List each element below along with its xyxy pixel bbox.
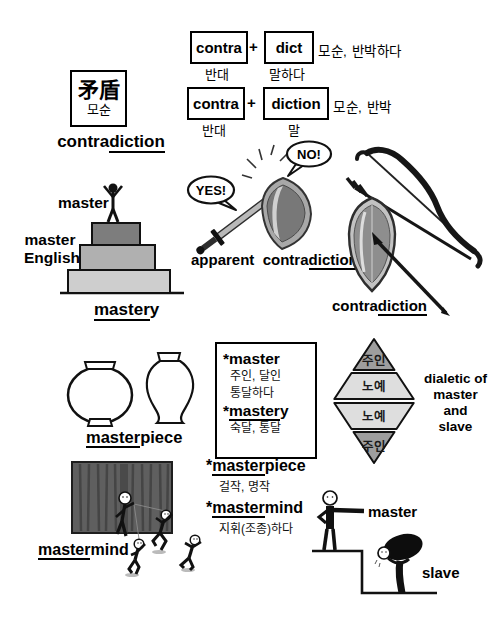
word-part-label: diction [271,95,320,112]
caption-masterpiece: masterpiece [86,428,182,447]
label-master: master [368,503,417,520]
diamond-label: dialetic of master and slave [416,371,495,435]
mastery-rest: y [280,402,289,419]
pyramid-side-label: master English [24,231,76,267]
masterpiece-rest: piece [265,457,306,474]
apparent-text: apparent [191,251,254,268]
vases-illustration [60,345,195,430]
headword-contradiction: contradiction [56,132,166,152]
pyramid-tier-top [92,223,140,245]
speech-bubble-no: NO! [287,142,331,177]
slave-figure [375,530,426,593]
word-part-box-contra-2: contra [187,87,245,120]
diamond-label-line4: slave [439,419,473,434]
bow-arrow-shield-illustration [345,142,495,317]
entry-mastery-word: *mastery [223,401,309,420]
pyramid-top-label: master [58,194,109,212]
puppet-theater-illustration [58,458,218,583]
master-slave-illustration [300,477,495,599]
masterpiece-root: master [212,457,264,476]
mastermind-rest: mind [90,541,128,558]
headword-root: diction [109,132,165,153]
mastermind-rest: mind [265,499,303,516]
entry-mastermind-gloss: 지휘(조종)하다 [206,519,306,536]
word-definition-box: *master 주인, 달인 통달하다 *mastery 숙달, 통달 [215,342,317,459]
diamond-diagram: 주인 노예 노예 주인 [331,337,417,465]
contradiction-plain: contra [263,251,309,268]
yes-text: YES! [196,183,226,198]
entry-masterpiece-word: *masterpiece [206,456,306,475]
entry-master-word: *master [223,349,309,368]
entry-master-gloss2: 통달하다 [223,385,309,401]
entry-mastery-gloss: 숙달, 통달 [223,420,309,436]
contradiction-plain: contra [332,297,378,314]
masterpiece-rest: piece [140,428,182,446]
band-text-juin: 주인 [362,353,386,368]
caption-mastery: mastery [94,300,159,320]
caption-apparent-contradiction: apparent contradiction [191,251,358,268]
puppet-figure-3 [181,535,201,572]
word-part-label: contra [196,39,242,56]
entry-masterpiece-gloss: 걸작, 명작 [206,477,306,494]
korean-meaning: 모순, 반박하다 [318,40,402,60]
mastery-root: master [229,402,280,421]
caption-mastermind: mastermind [38,541,129,559]
contradiction-root: diction [378,297,427,316]
master-figure [319,491,364,550]
no-text: NO! [297,147,321,162]
diamond-label-line2: master [433,387,477,402]
moon-jar-icon [68,362,132,426]
word-list: *masterpiece 걸작, 명작 *mastermind 지휘(조종)하다 [206,456,306,540]
korean-gloss: 말하다 [264,64,310,83]
speech-bubble-yes: YES! [188,177,236,211]
mastery-rest: y [150,300,159,319]
side-label-line1: master [25,231,76,248]
sword-shield-illustration: YES! NO! [186,138,338,258]
plus-sign: + [247,94,256,111]
masterpiece-root: master [86,428,140,448]
pyramid-tier-middle [80,245,155,270]
korean-meaning: 모순, 반박 [333,96,392,116]
word-part-label: dict [276,39,303,56]
entry-mastermind-word: *mastermind [206,498,306,517]
word-part-label: contra [193,95,239,112]
korean-gloss: 말 [263,120,325,139]
plus-sign: + [249,38,258,55]
impact-sparks [242,145,288,178]
mastery-root: master [94,300,150,321]
mastermind-root: master [38,541,90,560]
hanja-text: 矛盾 [78,79,120,102]
hanja-box: 矛盾 모순 [70,70,127,127]
label-slave: slave [422,564,460,581]
entry-master-gloss1: 주인, 달인 [223,368,309,384]
band-text-juin: 주인 [362,439,386,454]
hanja-korean: 모순 [87,102,111,118]
word-part-box-dict: dict [264,31,314,64]
diamond-label-line3: and [443,403,467,418]
word-part-box-diction: diction [263,87,329,120]
shield-icon [262,178,311,249]
korean-gloss: 반대 [187,120,241,139]
side-label-line2: English [24,249,80,266]
vocab-book-page: contra + dict 모순, 반박하다 반대 말하다 contra + d… [0,0,495,622]
pierced-shield-icon [349,198,395,291]
mastermind-root: master [212,499,264,518]
band-text-noye: 노예 [362,409,386,424]
stairs-icon [312,551,437,593]
word-part-box-contra-1: contra [190,31,248,64]
headword-plain: contra [57,132,109,151]
band-text-noye: 노예 [362,379,386,394]
diamond-label-line1: dialetic of [424,371,487,386]
korean-gloss: 반대 [190,64,244,83]
caption-contradiction-2: contradiction [332,297,427,314]
vase-icon [147,353,193,423]
pyramid-tier-bottom [68,270,170,293]
